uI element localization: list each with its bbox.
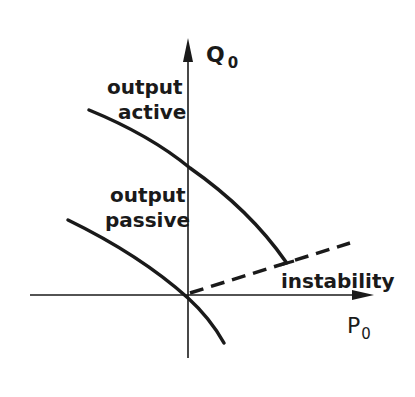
characteristic-diagram: Q0 P0 output active output passive insta… bbox=[0, 0, 415, 397]
output-active-label-line1: output bbox=[107, 75, 183, 99]
output-active-label-line2: active bbox=[118, 100, 186, 124]
output-passive-curve bbox=[68, 220, 224, 343]
output-passive-label-line1: output bbox=[110, 183, 186, 207]
y-axis-label: Q0 bbox=[206, 42, 238, 72]
x-axis-label: P0 bbox=[347, 313, 371, 343]
instability-label: instability bbox=[281, 269, 395, 293]
output-passive-label-line2: passive bbox=[105, 208, 190, 232]
y-axis-arrow-icon bbox=[183, 38, 193, 62]
